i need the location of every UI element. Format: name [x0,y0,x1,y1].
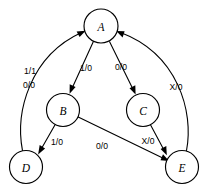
node-d[interactable]: D [10,151,43,184]
node-e[interactable]: E [166,151,199,184]
edge-d-to-a-path [21,33,82,151]
state-diagram-canvas: 1/1 0/0 1/0 0/0 X/0 1/0 [0,0,205,191]
edge-e-to-a: X/0 [116,31,188,151]
node-b-label: B [59,105,66,117]
edge-d-to-a-label-1: 1/1 [24,66,36,76]
node-b[interactable]: B [47,94,80,127]
node-c[interactable]: C [127,94,160,127]
node-a[interactable]: A [84,9,118,43]
edge-e-to-a-label: X/0 [170,82,183,92]
edge-c-to-e-arrowhead [161,146,167,155]
edge-a-to-b-label: 1/0 [80,63,92,73]
edge-c-to-e: X/0 [142,125,167,155]
edge-d-to-a: 1/1 0/0 [21,31,86,151]
edge-b-to-d-label: 1/0 [51,137,63,147]
edge-d-to-a-label-2: 0/0 [23,80,35,90]
node-d-label: D [21,162,31,174]
edge-b-to-d-arrowhead [38,145,45,154]
state-diagram-svg: 1/1 0/0 1/0 0/0 X/0 1/0 [0,0,205,191]
node-e-label: E [177,162,185,174]
node-c-label: C [139,105,147,117]
edge-c-to-e-label: X/0 [142,136,155,146]
edge-a-to-c: 0/0 [110,42,136,95]
edge-a-to-b: 1/0 [70,41,94,93]
edge-d-to-a-arrowhead [77,31,86,37]
edge-a-to-c-label: 0/0 [115,62,127,72]
edge-a-to-b-arrowhead [70,84,76,94]
edge-b-to-d: 1/0 [38,125,63,155]
edge-b-to-e: 0/0 [78,117,169,161]
node-a-label: A [96,21,105,33]
edge-a-to-c-arrowhead [130,85,136,94]
edge-b-to-e-label: 0/0 [96,141,108,151]
